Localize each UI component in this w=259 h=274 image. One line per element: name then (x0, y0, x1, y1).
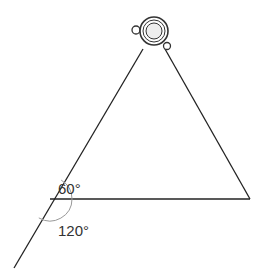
angle-label-60: 60° (58, 180, 81, 197)
right-beam-line (165, 49, 250, 199)
angle-label-120: 120° (58, 222, 89, 239)
light-triangle-diagram: 60° 120° (0, 0, 259, 274)
lamp-icon (132, 17, 171, 50)
